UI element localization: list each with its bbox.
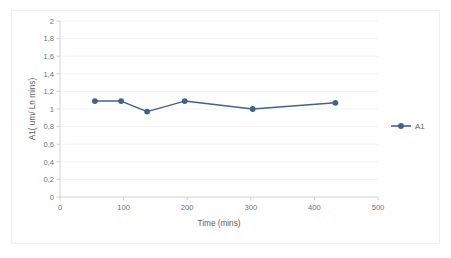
y-tick-label: 0,4	[43, 158, 54, 167]
series-a1-line	[95, 101, 336, 112]
chart-figure: 2 1,8 1,6 1,4 1,2 1 0,8 0,6 0,4 0,2 0 0 …	[0, 0, 451, 258]
chart-legend[interactable]: A1	[391, 122, 425, 131]
y-tick-label: 1,8	[43, 34, 54, 43]
y-tick-label: 1,2	[43, 87, 54, 96]
data-point[interactable]	[333, 100, 339, 106]
data-point[interactable]	[144, 109, 150, 115]
x-tick-label: 200	[181, 203, 194, 212]
data-point[interactable]	[118, 98, 124, 104]
x-tick-label: 400	[308, 203, 321, 212]
y-tick-label: 1,6	[43, 52, 54, 61]
legend-entry-label: A1	[415, 122, 425, 131]
y-axis-title: A1( um/ Ln mins)	[28, 78, 37, 141]
x-tick-labels: 0 100 200 300 400 500	[58, 203, 384, 212]
data-point[interactable]	[182, 98, 188, 104]
y-axis	[57, 21, 61, 197]
y-tick-label: 0,6	[43, 140, 54, 149]
x-tick-label: 0	[58, 203, 62, 212]
gridlines	[60, 21, 378, 179]
x-tick-label: 500	[372, 203, 385, 212]
y-tick-label: 0	[50, 193, 54, 202]
series-a1[interactable]	[92, 98, 338, 114]
y-tick-label: 2	[50, 17, 54, 26]
x-tick-label: 100	[117, 203, 130, 212]
x-axis-title: Time (mins)	[198, 219, 241, 228]
y-tick-labels: 2 1,8 1,6 1,4 1,2 1 0,8 0,6 0,4 0,2 0	[43, 17, 54, 202]
y-tick-label: 1	[50, 105, 54, 114]
legend-marker-icon	[398, 123, 404, 129]
data-point[interactable]	[92, 98, 98, 104]
data-point[interactable]	[250, 106, 256, 112]
y-tick-label: 0,2	[43, 175, 54, 184]
x-tick-label: 300	[244, 203, 257, 212]
y-tick-label: 0,8	[43, 122, 54, 131]
y-tick-label: 1,4	[43, 70, 54, 79]
x-axis	[60, 197, 378, 201]
line-chart[interactable]: 2 1,8 1,6 1,4 1,2 1 0,8 0,6 0,4 0,2 0 0 …	[0, 0, 451, 258]
